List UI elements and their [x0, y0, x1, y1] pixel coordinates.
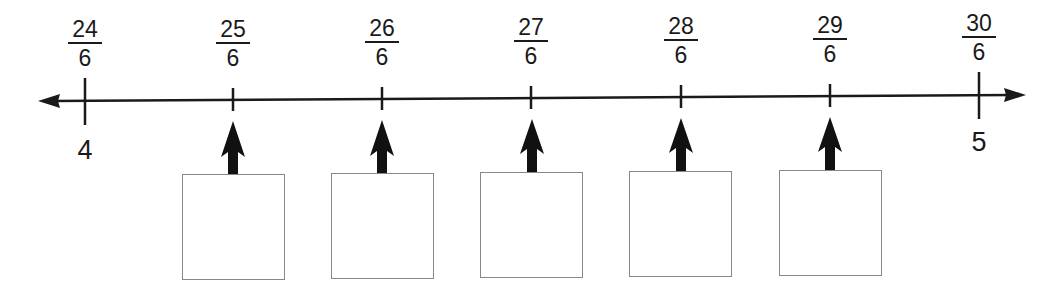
- fraction-bar: [962, 36, 996, 38]
- left-arrow-icon: [38, 94, 60, 108]
- numerator: 24: [55, 17, 115, 42]
- fraction-bar: [514, 40, 548, 42]
- up-arrow-icon: [520, 119, 544, 172]
- fraction-label: 29 6: [800, 13, 860, 66]
- numerator: 26: [352, 16, 412, 41]
- right-arrow-icon: [1004, 88, 1026, 102]
- fraction-bar: [813, 38, 847, 40]
- fraction-label: 27 6: [501, 15, 561, 68]
- fraction-label: 26 6: [352, 16, 412, 69]
- answer-box-2[interactable]: [331, 173, 434, 279]
- fraction-label: 25 6: [203, 17, 263, 70]
- numerator: 28: [651, 14, 711, 39]
- answer-box-1[interactable]: [182, 174, 285, 280]
- up-arrow-icon: [221, 121, 245, 175]
- up-arrow-icon: [669, 118, 693, 171]
- denominator: 6: [501, 44, 561, 68]
- numerator: 30: [949, 11, 1009, 36]
- fraction-label: 24 6: [55, 17, 115, 70]
- up-arrow-icon: [370, 120, 394, 174]
- answer-box-4[interactable]: [629, 171, 732, 277]
- denominator: 6: [203, 46, 263, 70]
- denominator: 6: [55, 46, 115, 70]
- answer-box-3[interactable]: [480, 172, 583, 278]
- denominator: 6: [352, 45, 412, 69]
- pointer-arrows: [221, 117, 842, 175]
- fraction-bar: [68, 42, 102, 44]
- answer-box-5[interactable]: [779, 170, 882, 276]
- denominator: 6: [949, 40, 1009, 64]
- whole-label-start: 4: [65, 136, 105, 164]
- numerator: 27: [501, 15, 561, 40]
- numerator: 29: [800, 13, 860, 38]
- fraction-label: 28 6: [651, 14, 711, 67]
- numerator: 25: [203, 17, 263, 42]
- denominator: 6: [651, 43, 711, 67]
- up-arrow-icon: [818, 117, 842, 170]
- fraction-bar: [664, 39, 698, 41]
- denominator: 6: [800, 42, 860, 66]
- fraction-bar: [216, 42, 250, 44]
- fraction-label: 30 6: [949, 11, 1009, 64]
- whole-label-end: 5: [959, 128, 999, 156]
- fraction-bar: [365, 41, 399, 43]
